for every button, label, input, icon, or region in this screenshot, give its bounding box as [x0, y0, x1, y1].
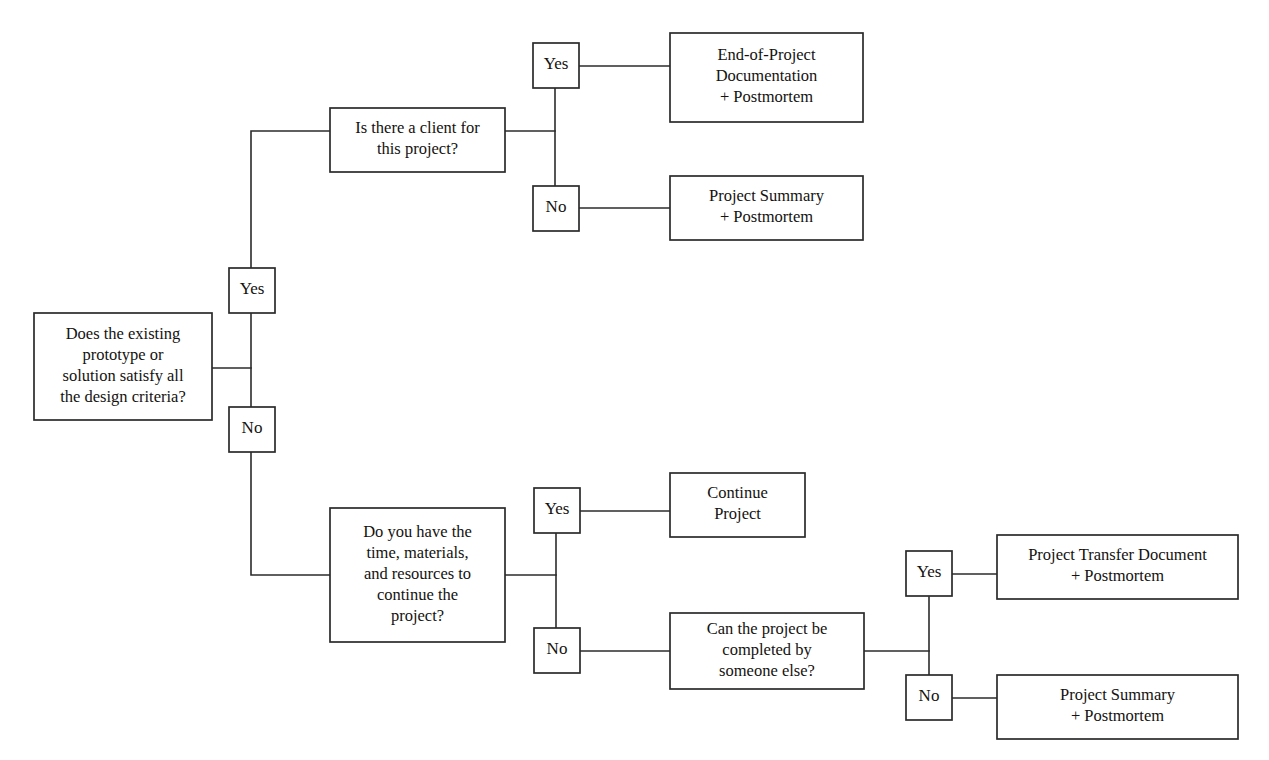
do-you-have-time-materials-resources-text-line: project? — [391, 606, 444, 625]
does-prototype-satisfy-criteria-text-line: Does the existing — [66, 324, 181, 343]
does-prototype-satisfy-criteria-text-line: solution satisfy all — [63, 366, 184, 385]
label-no-someone-else: No — [906, 675, 952, 720]
do-you-have-time-materials-resources-text-line: Do you have the — [363, 522, 472, 541]
label-yes-resources-text-line: Yes — [545, 499, 570, 518]
label-no-resources-text-line: No — [547, 639, 568, 658]
can-project-be-completed-by-someone-else: Can the project becompleted bysomeone el… — [670, 613, 864, 689]
project-transfer-document: Project Transfer Document+ Postmortem — [997, 535, 1238, 599]
can-project-be-completed-by-someone-else-text-line: someone else? — [719, 661, 815, 680]
continue-project-text-line: Continue — [707, 483, 768, 502]
flowchart-canvas: Does the existingprototype orsolution sa… — [0, 0, 1269, 760]
do-you-have-time-materials-resources: Do you have thetime, materials,and resou… — [330, 508, 505, 642]
label-no-client: No — [533, 186, 579, 231]
flowchart-diagram: Does the existingprototype orsolution sa… — [0, 0, 1269, 760]
label-yes-root: Yes — [229, 268, 275, 313]
end-of-project-documentation-text-line: + Postmortem — [720, 87, 813, 106]
does-prototype-satisfy-criteria-text-line: the design criteria? — [60, 387, 186, 406]
label-yes-root-text-line: Yes — [240, 279, 265, 298]
does-prototype-satisfy-criteria-text-line: prototype or — [82, 345, 164, 364]
project-summary-postmortem-bottom-text-line: Project Summary — [1060, 685, 1176, 704]
project-summary-postmortem-top-text-line: + Postmortem — [720, 207, 813, 226]
node-layer: Does the existingprototype orsolution sa… — [34, 33, 1238, 739]
end-of-project-documentation-text-line: Documentation — [716, 66, 818, 85]
connector-root-yes-up — [251, 131, 330, 268]
end-of-project-documentation-text-line: End-of-Project — [717, 45, 815, 64]
continue-project: ContinueProject — [670, 473, 805, 537]
project-summary-postmortem-bottom-text-line: + Postmortem — [1071, 706, 1164, 725]
connector-root-no-down — [251, 452, 330, 575]
label-no-root: No — [229, 407, 275, 452]
can-project-be-completed-by-someone-else-text-line: Can the project be — [707, 619, 828, 638]
project-transfer-document-text-line: + Postmortem — [1071, 566, 1164, 585]
project-summary-postmortem-top: Project Summary+ Postmortem — [670, 176, 863, 240]
do-you-have-time-materials-resources-text-line: and resources to — [364, 564, 471, 583]
is-there-a-client-text-line: this project? — [377, 139, 458, 158]
label-no-root-text-line: No — [242, 418, 263, 437]
label-no-resources: No — [534, 628, 580, 673]
label-no-someone-else-text-line: No — [919, 686, 940, 705]
label-yes-client: Yes — [533, 43, 579, 88]
is-there-a-client: Is there a client forthis project? — [330, 108, 505, 172]
is-there-a-client-text-line: Is there a client for — [355, 118, 480, 137]
do-you-have-time-materials-resources-text-line: time, materials, — [366, 543, 468, 562]
label-no-client-text-line: No — [546, 197, 567, 216]
project-transfer-document-text-line: Project Transfer Document — [1028, 545, 1207, 564]
project-summary-postmortem-bottom: Project Summary+ Postmortem — [997, 675, 1238, 739]
project-summary-postmortem-top-text-line: Project Summary — [709, 186, 825, 205]
can-project-be-completed-by-someone-else-text-line: completed by — [722, 640, 812, 659]
do-you-have-time-materials-resources-text-line: continue the — [377, 585, 458, 604]
continue-project-text-line: Project — [714, 504, 761, 523]
label-yes-resources: Yes — [534, 488, 580, 533]
end-of-project-documentation: End-of-ProjectDocumentation+ Postmortem — [670, 33, 863, 122]
label-yes-someone-else-text-line: Yes — [917, 562, 942, 581]
label-yes-client-text-line: Yes — [544, 54, 569, 73]
label-yes-someone-else: Yes — [906, 551, 952, 596]
does-prototype-satisfy-criteria: Does the existingprototype orsolution sa… — [34, 313, 212, 420]
